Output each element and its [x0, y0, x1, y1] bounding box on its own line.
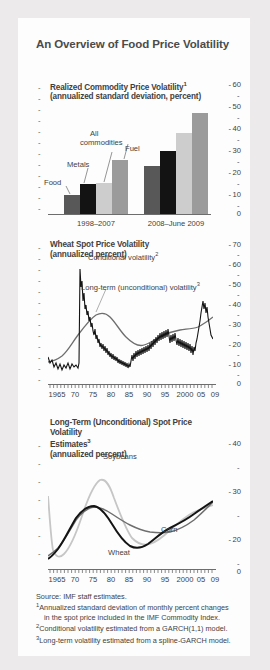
- panel3-title-line1: Long-Term (Unconditional) Spot Price Vol…: [50, 418, 192, 437]
- footnotes: Source: IMF staff estimates. 1Annualized…: [36, 592, 232, 646]
- panel3-xtick-85: 85: [125, 575, 133, 584]
- panel2-xtick-90: 90: [143, 390, 151, 399]
- panel2-xtick-70: 70: [71, 390, 79, 399]
- panel1-ytick-60: 60: [233, 80, 241, 89]
- panel2-xtick-85: 85: [125, 390, 133, 399]
- panel1-ytick-40: 40: [233, 124, 241, 133]
- panel3-xtick-75: 75: [89, 575, 97, 584]
- footnote-1: 1Annualized standard deviation of monthl…: [36, 601, 232, 622]
- panel2-xtick-05: 05: [197, 390, 205, 399]
- panel2-ytick-10: 10: [233, 360, 241, 369]
- panel2-xtick-1965: 1965: [49, 390, 66, 399]
- panel2-ytick-70: 70: [233, 240, 241, 249]
- panel2-ytick-50: 50: [233, 280, 241, 289]
- panel3-ytick-0: 0: [237, 567, 241, 576]
- panel-realized-commodity-price-volatility: Realized Commodity Price Volatility1 (an…: [36, 80, 241, 230]
- panel3-label-wheat: Wheat: [108, 548, 130, 557]
- footnote-3-text: Long-term volatility estimated from a sp…: [39, 636, 230, 645]
- footnote-3: 3Long-term volatility estimated from a s…: [36, 634, 232, 646]
- panel2-ytick-60: 60: [233, 260, 241, 269]
- panel1-left-ticks: - - - - - - - - - - - -: [36, 80, 48, 230]
- panel1-label-all-line2: commodities: [80, 138, 123, 147]
- panel2-xtick-2000: 2000: [177, 390, 194, 399]
- panel1-ytick-0: 0: [237, 209, 241, 218]
- panel1-y-axis: -60 - -50 - -40 - -30 - -20 - -10 - 0: [211, 80, 241, 230]
- panel2-ytick-0: 0: [237, 379, 241, 388]
- panel-longterm-spot-price-volatility-estimates: Long-Term (Unconditional) Spot Price Vol…: [36, 418, 241, 593]
- panel1-ytick-30: 30: [233, 146, 241, 155]
- footnote-2: 2Conditional volatility estimated from a…: [36, 622, 232, 634]
- panel3-xtick-09: 09: [211, 575, 219, 584]
- panel1-baseline: [48, 214, 211, 215]
- panel2-annotation-conditional: Conditional volatility2: [88, 251, 158, 262]
- panel1-plot: Food Metals All commodities Fuel: [48, 82, 208, 215]
- panel2-annotation-conditional-ref: 2: [155, 251, 158, 257]
- panel2-xtick-95: 95: [161, 390, 169, 399]
- panel3-xtick-95: 95: [161, 575, 169, 584]
- panel2-plot: Conditional volatility2 Long-term (uncon…: [48, 243, 213, 385]
- panel1-ytick-50: 50: [233, 102, 241, 111]
- panel3-xtick-70: 70: [71, 575, 79, 584]
- panel2-series: [48, 243, 213, 385]
- panel2-annotation-longterm-text: Long-term (unconditional) volatility: [81, 283, 197, 292]
- panel3-label-corn: Corn: [161, 525, 177, 534]
- panel2-annotation-longterm-ref: 3: [197, 281, 200, 287]
- panel2-annotation-conditional-text: Conditional volatility: [88, 253, 155, 262]
- panel1-label-metals: Metals: [67, 160, 89, 169]
- panel3-xtick-90: 90: [143, 575, 151, 584]
- panel3-xtick-2000: 2000: [177, 575, 194, 584]
- panel3-ytick-20: 20: [233, 535, 241, 544]
- panel3-series: [48, 442, 213, 570]
- page-title: An Overview of Food Price Volatility: [36, 38, 229, 50]
- panel3-x-minor-ticks: [48, 570, 216, 574]
- panel1-label-all-line1: All: [90, 129, 98, 138]
- panel1-label-food: Food: [44, 178, 61, 187]
- panel3-ytick-40: 40: [233, 439, 241, 448]
- panel3-xtick-1965: 1965: [49, 575, 66, 584]
- panel3-xtick-05: 05: [197, 575, 205, 584]
- panel1-xtick-2008-2009: 2008–June 2009: [148, 219, 205, 228]
- panel2-ytick-30: 30: [233, 320, 241, 329]
- panel3-ytick-30: 30: [233, 487, 241, 496]
- panel2-ytick-40: 40: [233, 300, 241, 309]
- footnote-2-text: Conditional volatility estimated from a …: [39, 625, 227, 634]
- panel2-xtick-09: 09: [211, 390, 219, 399]
- panel1-ytick-20: 20: [233, 168, 241, 177]
- panel2-xtick-75: 75: [89, 390, 97, 399]
- figure-card: An Overview of Food Price Volatility Rea…: [18, 18, 250, 656]
- panel2-x-minor-ticks: [48, 385, 216, 389]
- panel3-line-corn: [48, 502, 213, 556]
- panel2-xtick-80: 80: [107, 390, 115, 399]
- panel1-label-fuel: Fuel: [125, 144, 140, 153]
- panel3-line-wheat: [48, 501, 213, 559]
- panel3-left-ticks: - - - - - - -: [36, 418, 48, 593]
- panel2-left-ticks: - - - - - - - - - - - - -: [36, 240, 48, 410]
- footnote-1-text: Annualized standard deviation of monthly…: [39, 604, 228, 622]
- panel1-ytick-10: 10: [233, 190, 241, 199]
- footnote-source: Source: IMF staff estimates.: [36, 592, 232, 601]
- panel1-xtick-1998-2007: 1998–2007: [77, 219, 115, 228]
- panel2-ytick-20: 20: [233, 340, 241, 349]
- panel3-label-soybeans: Soybeans: [103, 452, 137, 461]
- panel2-line-longterm: [48, 313, 213, 362]
- panel3-y-axis: -40 - -30 - -20 - 0: [211, 418, 241, 593]
- panel-wheat-spot-price-volatility: Wheat Spot Price Volatility (annualized …: [36, 240, 241, 410]
- panel3-plot: Soybeans Corn Wheat: [48, 442, 213, 570]
- panel2-annotation-longterm: Long-term (unconditional) volatility3: [81, 281, 200, 292]
- panel3-xtick-80: 80: [107, 575, 115, 584]
